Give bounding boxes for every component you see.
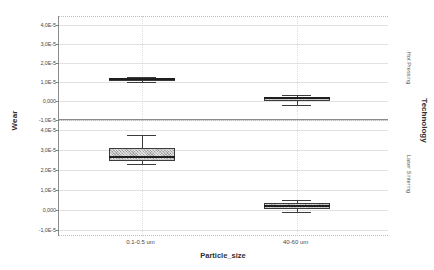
y-tick-label: 2,0E-5	[10, 60, 56, 66]
y-tick-label: 2,0E-5	[10, 167, 56, 173]
gridline	[59, 101, 388, 102]
box-plot-box	[109, 148, 175, 161]
gridline	[59, 170, 388, 171]
whisker-cap-lower	[127, 164, 156, 165]
y-tick-label: 3,0E-5	[10, 147, 56, 153]
strip-label-hot-pressing: Hot Pressing	[402, 22, 416, 114]
whisker-cap-lower	[282, 105, 311, 106]
gridline	[59, 130, 388, 131]
y-tick-label: 4,0E-5	[10, 127, 56, 133]
gridline	[59, 44, 388, 45]
gridline	[59, 190, 388, 191]
y-tick-mark	[56, 170, 59, 171]
strip-variable-title-text: Technology	[420, 98, 429, 142]
boxplot-chart: Wear Technology Hot Pressing Laser Sinte…	[0, 0, 434, 270]
x-axis-title: Particle_size	[58, 251, 388, 260]
y-tick-mark	[56, 25, 59, 26]
panel-hot-pressing	[58, 16, 388, 120]
box-plot-median	[109, 78, 175, 80]
y-tick-mark	[56, 63, 59, 64]
whisker-cap-lower	[127, 82, 156, 83]
y-tick-mark	[56, 82, 59, 83]
y-tick-label: -1,0E-5	[10, 117, 56, 123]
y-tick-mark	[56, 130, 59, 131]
panel-top-rule	[59, 16, 388, 17]
y-tick-mark	[56, 101, 59, 102]
whisker-cap-upper	[127, 135, 156, 136]
gridline	[59, 63, 388, 64]
gridline	[59, 82, 388, 83]
whisker-upper	[142, 135, 143, 148]
strip-label-laser-sintering: Laser Sintering	[402, 126, 416, 222]
gridline	[59, 210, 388, 211]
strip-label-hot-pressing-text: Hot Pressing	[406, 52, 412, 85]
strip-variable-title: Technology	[416, 0, 432, 240]
box-plot-median	[264, 205, 330, 207]
box-plot-median	[264, 97, 330, 99]
x-tick-label: 40-60 um	[283, 239, 308, 245]
vertical-guide	[142, 16, 143, 120]
panel-bottom-rule	[59, 235, 388, 236]
y-tick-mark	[56, 44, 59, 45]
y-tick-mark	[56, 230, 59, 231]
panel-laser-sintering-plot-area	[59, 120, 388, 236]
y-tick-label: 1,0E-5	[10, 79, 56, 85]
gridline	[59, 230, 388, 231]
y-tick-label: 4,0E-5	[10, 22, 56, 28]
panel-laser-sintering	[58, 120, 388, 236]
y-tick-mark	[56, 210, 59, 211]
gridline	[59, 25, 388, 26]
box-plot-median	[109, 156, 175, 158]
y-tick-mark	[56, 190, 59, 191]
x-axis-title-text: Particle_size	[200, 251, 245, 260]
y-tick-label: 3,0E-5	[10, 41, 56, 47]
y-tick-label: 0,000	[10, 207, 56, 213]
vertical-guide	[297, 120, 298, 236]
x-tick-label: 0.1-0.5 um	[126, 239, 155, 245]
y-tick-label: -1,0E-5	[10, 227, 56, 233]
whisker-cap-lower	[282, 212, 311, 213]
whisker-cap-upper	[282, 95, 311, 96]
panel-hot-pressing-plot-area	[59, 16, 388, 120]
y-tick-label: 1,0E-5	[10, 187, 56, 193]
y-tick-mark	[56, 150, 59, 151]
y-tick-label: 0,000	[10, 98, 56, 104]
whisker-cap-upper	[282, 200, 311, 201]
panel-top-rule	[59, 120, 388, 121]
strip-label-laser-sintering-text: Laser Sintering	[406, 155, 412, 194]
